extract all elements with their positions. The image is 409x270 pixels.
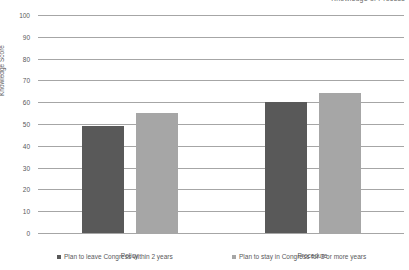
bar [265, 102, 307, 233]
bar [319, 93, 361, 233]
y-axis-tick-label: 0 [0, 230, 30, 237]
gridline [38, 59, 404, 60]
legend-label: Plan to stay in Congress for 3 or more y… [239, 254, 366, 261]
gridline [38, 233, 404, 234]
gridline [38, 15, 404, 16]
gridline [38, 80, 404, 81]
y-axis-tick-label: 100 [0, 12, 30, 19]
y-axis-tick-label: 60 [0, 99, 30, 106]
y-axis-tick-label: 70 [0, 77, 30, 84]
legend-swatch-icon [57, 255, 61, 259]
bar [136, 113, 178, 233]
y-axis-tick-label: 50 [0, 121, 30, 128]
y-axis-tick-label: 90 [0, 33, 30, 40]
y-axis-tick-label: 10 [0, 208, 30, 215]
legend-label: Plan to leave Congress within 2 years [64, 254, 173, 261]
y-axis-title: Knowledge Score [0, 45, 5, 96]
y-axis-tick-label: 40 [0, 142, 30, 149]
gridline [38, 37, 404, 38]
legend-item[interactable]: Plan to stay in Congress for 3 or more y… [232, 254, 366, 261]
y-axis-tick-label: 20 [0, 186, 30, 193]
legend-item[interactable]: Plan to leave Congress within 2 years [57, 254, 173, 261]
chart-legend: Plan to leave Congress within 2 yearsPla… [0, 254, 409, 268]
y-axis-tick-label: 80 [0, 55, 30, 62]
y-axis-tick-label: 30 [0, 164, 30, 171]
bar-chart: Knowledge Score 1009080706050403020100 P… [0, 0, 409, 270]
plot-area: 1009080706050403020100 PolicyProcedure [38, 15, 404, 233]
legend-swatch-icon [232, 255, 236, 259]
bar [82, 126, 124, 233]
